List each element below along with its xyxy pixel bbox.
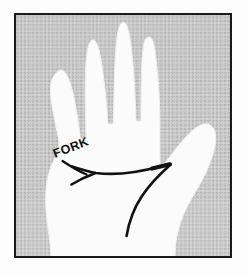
hand-diagram-canvas: FORK <box>0 0 247 278</box>
illustration-panel: FORK <box>15 14 231 257</box>
palmistry-figure: FORK <box>0 0 247 278</box>
